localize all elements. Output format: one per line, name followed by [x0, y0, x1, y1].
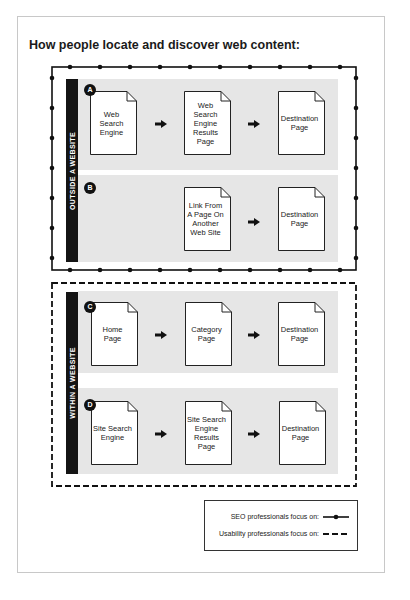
doc-site-search-engine: Site Search Engine: [91, 401, 138, 465]
doc-site-search-results: Site Search Engine Results Page: [185, 401, 232, 465]
arrow-right-icon: [248, 218, 260, 226]
arrow-right-icon: [155, 331, 167, 339]
legend-usability-row: Usability professionals focus on:: [219, 530, 349, 537]
arrow-right-icon: [248, 120, 260, 128]
usability-dashed-swatch-icon: [323, 531, 349, 537]
doc-web-search-engine: Web Search Engine: [90, 91, 137, 155]
doc-destination-page: Destination Page: [278, 302, 325, 366]
doc-web-search-results: Web Search Engine Results Page: [184, 91, 231, 155]
legend-usability-label: Usability professionals focus on:: [219, 530, 319, 537]
within-website-label: WITHIN A WEBSITE: [69, 347, 76, 419]
legend-seo-row: SEO professionals focus on:: [231, 513, 349, 520]
legend-seo-label: SEO professionals focus on:: [231, 513, 319, 520]
path-badge-a: A: [84, 84, 96, 96]
doc-destination-page: Destination Page: [278, 91, 325, 155]
outside-website-label-bar: OUTSIDE A WEBSITE: [66, 79, 78, 262]
legend-box: SEO professionals focus on: Usability pr…: [204, 500, 358, 551]
diagram-title: How people locate and discover web conte…: [29, 38, 300, 52]
arrow-right-icon: [155, 120, 167, 128]
arrow-right-icon: [155, 430, 167, 438]
doc-category-page: Category Page: [185, 302, 232, 366]
arrow-right-icon: [248, 430, 260, 438]
doc-destination-page: Destination Page: [278, 187, 325, 251]
path-badge-d: D: [84, 399, 96, 411]
path-badge-b: B: [84, 182, 96, 194]
within-website-label-bar: WITHIN A WEBSITE: [66, 292, 78, 474]
path-badge-c: C: [84, 301, 96, 313]
arrow-right-icon: [248, 331, 260, 339]
outside-website-label: OUTSIDE A WEBSITE: [69, 131, 76, 209]
seo-line-swatch-icon: [323, 514, 349, 520]
doc-link-from-another-site: Link From A Page On Another Web Site: [184, 187, 231, 251]
doc-destination-page: Destination Page: [279, 401, 326, 465]
doc-home-page: Home Page: [91, 302, 138, 366]
